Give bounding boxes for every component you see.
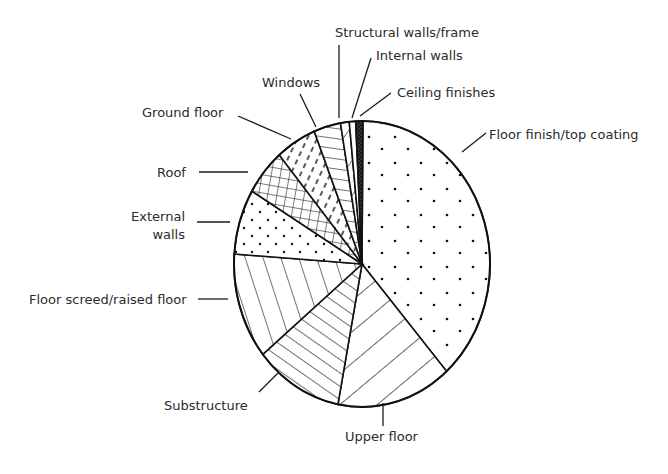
- leader-line: [238, 116, 291, 139]
- pie-chart-canvas: Floor finish/top coatingUpper floorSubst…: [0, 0, 668, 474]
- label-floor-finish-top-coating: Floor finish/top coating: [489, 127, 639, 142]
- label-floor-screed-raised-floor: Floor screed/raised floor: [29, 292, 187, 307]
- pie-slices: [234, 121, 490, 407]
- label-external-walls: External: [131, 209, 185, 224]
- label-internal-walls: Internal walls: [376, 48, 463, 63]
- label-substructure: Substructure: [164, 398, 248, 413]
- label-upper-floor: Upper floor: [345, 429, 419, 444]
- pie-chart: Floor finish/top coatingUpper floorSubst…: [0, 0, 668, 474]
- label-roof: Roof: [157, 165, 186, 180]
- label-windows: Windows: [262, 75, 320, 90]
- leader-line: [352, 58, 371, 118]
- label-ceiling-finishes: Ceiling finishes: [397, 85, 496, 100]
- label-external-walls: walls: [152, 227, 185, 242]
- leader-line: [300, 94, 316, 127]
- leader-line: [462, 133, 486, 152]
- leader-line: [259, 373, 278, 392]
- leader-line: [360, 93, 391, 116]
- label-structural-walls-frame: Structural walls/frame: [335, 25, 479, 40]
- label-ground-floor: Ground floor: [142, 105, 224, 120]
